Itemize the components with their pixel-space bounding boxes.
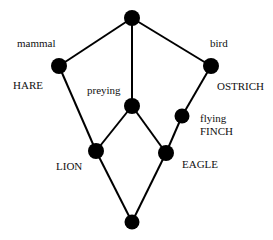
label-preying: preying <box>87 84 121 96</box>
edge-eagle-bottom <box>132 153 166 222</box>
node-flying <box>175 109 190 124</box>
edge-preying-lion <box>96 106 132 151</box>
label-eagle: EAGLE <box>182 158 218 170</box>
edge-mammal-lion <box>59 66 96 151</box>
label-hare: HARE <box>13 79 43 91</box>
label-lion: LION <box>56 160 82 172</box>
node-lion <box>88 143 104 159</box>
nodes <box>51 10 219 230</box>
edge-top-bird <box>132 18 211 66</box>
node-eagle <box>158 145 174 161</box>
node-mammal <box>51 58 67 74</box>
concept-lattice-diagram: mammal HARE bird OSTRICH preying flying … <box>0 0 273 240</box>
node-bird <box>203 58 219 74</box>
edge-preying-eagle <box>132 106 166 153</box>
node-top <box>124 10 140 26</box>
node-bottom <box>125 215 140 230</box>
edge-lion-bottom <box>96 151 132 222</box>
label-flying: flying <box>200 112 227 124</box>
label-mammal: mammal <box>17 37 56 49</box>
label-finch: FINCH <box>200 125 233 137</box>
label-ostrich: OSTRICH <box>217 80 264 92</box>
label-bird: bird <box>210 37 228 49</box>
edge-bird-flying <box>182 66 211 116</box>
node-preying <box>124 98 140 114</box>
edge-top-mammal <box>59 18 132 66</box>
